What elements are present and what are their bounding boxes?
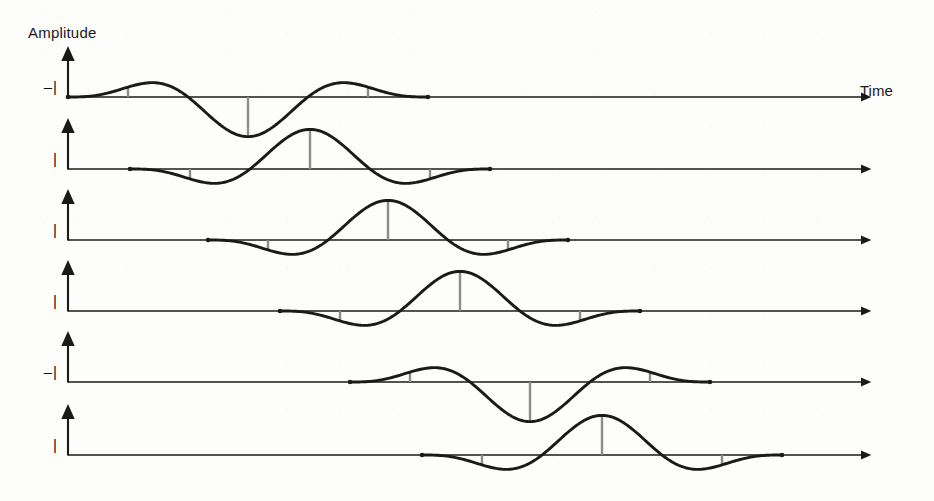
tick-label-trace-4: | — [24, 292, 58, 309]
trace-row-1 — [66, 59, 862, 137]
wavelet-moveout-figure: Amplitude Time –||||–|| — [0, 0, 934, 501]
tick-label-trace-5: –| — [24, 363, 58, 380]
wavelet-end-marker-6 — [780, 453, 785, 458]
trace-row-4 — [68, 271, 862, 325]
trace-row-5 — [68, 344, 862, 422]
wavelet-start-marker-2 — [128, 167, 133, 172]
wavelet-start-marker-5 — [348, 380, 353, 385]
wavelet-start-marker-1 — [66, 95, 71, 100]
wavelet-end-marker-2 — [488, 167, 493, 172]
tick-label-trace-2: | — [24, 150, 58, 167]
y-axis-title: Amplitude — [28, 24, 97, 41]
wavelet-start-marker-4 — [278, 309, 283, 314]
x-axis-title: Time — [860, 82, 893, 99]
wavelet-start-marker-3 — [206, 238, 211, 243]
wavelet-end-marker-1 — [426, 95, 431, 100]
wavelet-end-marker-5 — [708, 380, 713, 385]
wavelet-start-marker-6 — [420, 453, 425, 458]
wavelet-end-marker-3 — [566, 238, 571, 243]
tick-label-trace-6: | — [24, 436, 58, 453]
tick-label-trace-1: –| — [24, 78, 58, 95]
trace-row-2 — [68, 129, 862, 183]
wavelet-end-marker-4 — [638, 309, 643, 314]
tick-label-trace-3: | — [24, 221, 58, 238]
trace-row-6 — [68, 415, 862, 469]
trace-row-3 — [68, 200, 862, 254]
wavelet-plot-canvas — [0, 0, 934, 501]
